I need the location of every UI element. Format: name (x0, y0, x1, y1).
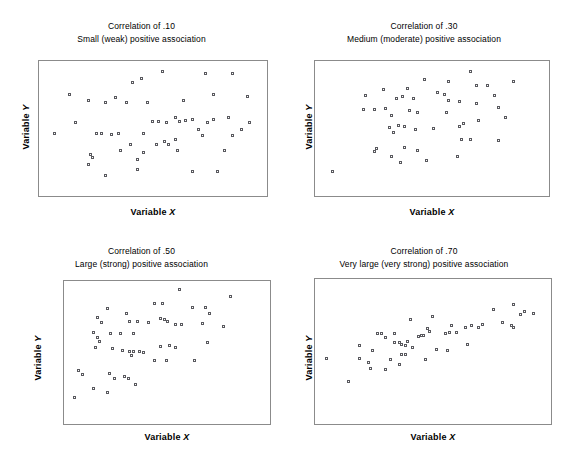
scatter-point (151, 120, 154, 123)
scatter-point (469, 70, 472, 73)
scatter-point (77, 369, 80, 372)
scatter-point (168, 344, 171, 347)
scatter-point (204, 306, 207, 309)
scatter-point (216, 170, 219, 173)
scatter-point (227, 116, 230, 119)
scatter-point (448, 331, 451, 334)
scatter-point (423, 78, 426, 81)
scatter-point (231, 72, 234, 75)
scatter-point (519, 313, 522, 316)
scatter-point (393, 332, 396, 335)
scatter-point (53, 132, 56, 135)
scatter-point (384, 368, 387, 371)
scatter-point (458, 125, 461, 128)
scatter-point (447, 99, 450, 102)
scatter-point (68, 93, 71, 96)
panel-2-x-axis-label: Variable X (314, 207, 550, 217)
scatter-point (455, 331, 458, 334)
panel-1-y-axis-label: Variable Y (21, 97, 31, 157)
panel-3-title: Correlation of .50 (0, 245, 283, 258)
scatter-point (406, 87, 409, 90)
panel-2-titles: Correlation of .30 Medium (moderate) pos… (283, 20, 565, 46)
scatter-point (369, 367, 372, 370)
panel-1-x-axis-symbol: X (169, 207, 175, 217)
panel-4-x-axis-symbol: X (449, 432, 455, 442)
scatter-point (159, 317, 162, 320)
scatter-point (389, 358, 392, 361)
scatter-point (436, 91, 439, 94)
scatter-point (416, 149, 419, 152)
scatter-point (393, 341, 396, 344)
scatter-point (153, 359, 156, 362)
panel-3-plot-area (63, 280, 271, 425)
panel-2-subtitle: Medium (moderate) positive association (283, 33, 565, 46)
panel-1-y-axis-label-text: Variable (21, 111, 31, 150)
scatter-point (371, 349, 374, 352)
scatter-point (166, 320, 169, 323)
scatter-point (119, 332, 122, 335)
panel-2-y-axis-label-text: Variable (304, 111, 314, 150)
scatter-point (104, 101, 107, 104)
scatter-point (147, 321, 150, 324)
scatter-point (201, 322, 204, 325)
scatter-point (404, 344, 407, 347)
scatter-point (92, 331, 95, 334)
scatter-point (140, 77, 143, 80)
scatter-point (206, 341, 209, 344)
scatter-point (191, 118, 194, 121)
scatter-point (458, 100, 461, 103)
panel-3-y-axis-label: Variable Y (33, 328, 43, 388)
scatter-point (106, 307, 109, 310)
scatter-point (435, 348, 438, 351)
scatter-point (87, 99, 90, 102)
scatter-point (512, 303, 515, 306)
scatter-point (412, 97, 415, 100)
scatter-point (398, 363, 401, 366)
scatter-point (191, 306, 194, 309)
scatter-point (400, 353, 403, 356)
scatter-point (414, 128, 417, 131)
scatter-point (392, 131, 395, 134)
scatter-point (128, 320, 131, 323)
scatter-point (358, 344, 361, 347)
scatter-point (464, 326, 467, 329)
panel-4-subtitle: Very large (very strong) positive associ… (283, 258, 565, 271)
scatter-point (132, 332, 135, 335)
scatter-point (174, 138, 177, 141)
scatter-point (403, 146, 406, 149)
scatter-point (331, 170, 334, 173)
scatter-point (325, 357, 328, 360)
scatter-point (146, 101, 149, 104)
scatter-point (178, 288, 181, 291)
scatter-point (132, 350, 135, 353)
scatter-point (450, 324, 453, 327)
scatter-point (182, 99, 185, 102)
scatter-point (512, 80, 515, 83)
panel-3-y-axis-symbol: Y (33, 335, 43, 341)
scatter-point (121, 349, 124, 352)
scatter-point (142, 132, 145, 135)
scatter-point (174, 116, 177, 119)
scatter-point (446, 349, 449, 352)
scatter-point (347, 380, 350, 383)
panel-4-y-axis-label-text: Variable (304, 342, 314, 381)
panel-4-x-axis-label: Variable X (314, 432, 552, 442)
scatter-point (475, 102, 478, 105)
scatter-point (477, 326, 480, 329)
scatter-point (114, 96, 117, 99)
scatter-point (395, 97, 398, 100)
scatter-point (163, 140, 166, 143)
panel-correlation-70: Correlation of .70 Very large (very stro… (283, 229, 565, 458)
scatter-point (409, 318, 412, 321)
scatter-point (193, 359, 196, 362)
panel-2-plot-area (314, 60, 550, 197)
scatter-point (431, 315, 434, 318)
scatter-point (138, 350, 141, 353)
panel-1-titles: Correlation of .10 Small (weak) positive… (0, 20, 283, 46)
scatter-point (523, 310, 526, 313)
scatter-point (231, 134, 234, 137)
scatter-point (367, 361, 370, 364)
scatter-point (165, 121, 168, 124)
scatter-point (403, 125, 406, 128)
scatter-point (153, 302, 156, 305)
